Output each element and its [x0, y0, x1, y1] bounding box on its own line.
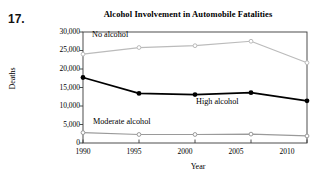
y-tick-label: 10,000 [44, 102, 80, 110]
x-tick-label: 2000 [165, 147, 205, 156]
data-point [137, 133, 141, 137]
series-moderate-alcohol [81, 131, 309, 138]
problem-number: 17. [8, 12, 25, 26]
data-point [305, 61, 309, 65]
data-point [137, 91, 142, 96]
y-tick-label: 0 [44, 139, 80, 147]
data-point [249, 39, 253, 43]
y-tick-label: 25,000 [44, 46, 80, 54]
y-tick-label: 5,000 [44, 121, 80, 129]
data-point [193, 133, 197, 137]
series-line [83, 133, 307, 136]
series-no-alcohol [81, 39, 309, 64]
series-line [83, 41, 307, 62]
x-tick-label: 2010 [267, 147, 307, 156]
data-point [81, 131, 85, 135]
data-point [249, 90, 254, 95]
y-tick-label: 15,000 [44, 84, 80, 92]
chart-figure: 17. Alcohol Involvement in Automobile Fa… [0, 0, 322, 179]
data-point [249, 132, 253, 136]
x-tick-label: 1995 [114, 147, 154, 156]
x-axis-label: Year [80, 162, 316, 171]
plot-frame [83, 32, 307, 143]
series-label-no-alcohol: No alcohol [92, 30, 129, 39]
data-point [305, 134, 309, 138]
x-tick-label: 1990 [63, 147, 103, 156]
series-label-high-alcohol: High alcohol [196, 97, 239, 106]
series-high-alcohol [81, 75, 310, 103]
series-line [83, 78, 307, 101]
y-axis-label: Deaths [8, 49, 17, 109]
data-point [193, 44, 197, 48]
data-series-layer [81, 39, 310, 138]
y-tick-label: 20,000 [44, 65, 80, 73]
data-point [137, 46, 141, 50]
x-tick-label: 2005 [216, 147, 256, 156]
chart-title: Alcohol Involvement in Automobile Fatali… [60, 9, 316, 19]
series-label-moderate-alcohol: Moderate alcohol [93, 117, 151, 126]
y-tick-label: 30,000 [44, 28, 80, 36]
data-point [81, 52, 85, 56]
axes [80, 32, 308, 143]
data-point [81, 75, 86, 80]
data-point [193, 92, 198, 97]
data-point [305, 98, 310, 103]
series-annotations: No alcoholHigh alcoholModerate alcohol [92, 30, 239, 126]
